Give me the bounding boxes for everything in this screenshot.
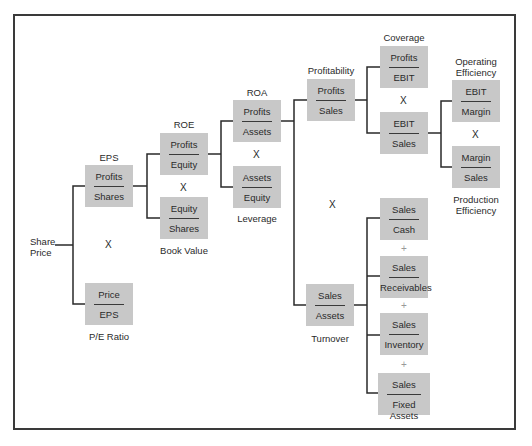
roe-box: Profits Equity bbox=[160, 133, 208, 175]
production-efficiency-box: Margin Sales bbox=[452, 146, 500, 188]
multiply-operator: X bbox=[472, 129, 479, 140]
profitability-denominator: Sales bbox=[307, 105, 355, 116]
multiply-operator: X bbox=[180, 182, 187, 193]
fraction-bar bbox=[461, 167, 491, 168]
eps-denominator: Shares bbox=[85, 191, 133, 202]
production-efficiency-line1: Production bbox=[446, 194, 506, 205]
cash-box: Sales Cash bbox=[380, 198, 428, 240]
book-value-numerator: Equity bbox=[160, 203, 208, 214]
leverage-denominator: Equity bbox=[233, 192, 281, 203]
profitability-box: Profits Sales bbox=[307, 79, 355, 121]
profitability-numerator: Profits bbox=[307, 85, 355, 96]
leverage-caption: Leverage bbox=[227, 213, 287, 224]
roe-title: ROE bbox=[160, 119, 208, 130]
turnover-box: Sales Assets bbox=[306, 284, 354, 326]
fraction-bar bbox=[169, 218, 199, 219]
pe-caption: P/E Ratio bbox=[79, 331, 139, 342]
fixed-assets-box: Sales Fixed Assets bbox=[378, 373, 430, 415]
coverage-denominator: EBIT bbox=[380, 72, 428, 83]
fraction-bar bbox=[169, 154, 199, 155]
fraction-bar bbox=[389, 67, 419, 68]
pe-box: Price EPS bbox=[85, 283, 133, 325]
share-price-label: Share Price bbox=[30, 236, 55, 258]
plus-operator: + bbox=[401, 359, 407, 370]
coverage-box: Profits EBIT bbox=[380, 46, 428, 88]
turnover-caption: Turnover bbox=[300, 333, 360, 344]
multiply-operator: X bbox=[105, 239, 112, 250]
multiply-operator: X bbox=[329, 199, 336, 210]
roa-denominator: Assets bbox=[233, 126, 281, 137]
operating-efficiency-title: Operating Efficiency bbox=[446, 56, 506, 78]
fraction-bar bbox=[315, 305, 345, 306]
operating-efficiency-numerator: EBIT bbox=[452, 86, 500, 97]
coverage-numerator: Profits bbox=[380, 52, 428, 63]
ebit-sales-box: EBIT Sales bbox=[380, 112, 428, 154]
operating-efficiency-line2: Efficiency bbox=[446, 67, 506, 78]
roe-numerator: Profits bbox=[160, 139, 208, 150]
leverage-numerator: Assets bbox=[233, 172, 281, 183]
operating-efficiency-box: EBIT Margin bbox=[452, 80, 500, 122]
fixed-assets-numerator: Sales bbox=[378, 379, 430, 390]
multiply-operator: X bbox=[400, 95, 407, 106]
book-value-caption: Book Value bbox=[152, 245, 216, 256]
pe-denominator: EPS bbox=[85, 309, 133, 320]
inventory-numerator: Sales bbox=[380, 319, 428, 330]
eps-numerator: Profits bbox=[85, 171, 133, 182]
fraction-bar bbox=[94, 304, 124, 305]
production-efficiency-numerator: Margin bbox=[452, 152, 500, 163]
share-price-line2: Price bbox=[30, 247, 55, 258]
roa-box: Profits Assets bbox=[233, 100, 281, 142]
plus-operator: + bbox=[401, 300, 407, 311]
receivables-numerator: Sales bbox=[380, 262, 428, 273]
roa-numerator: Profits bbox=[233, 106, 281, 117]
receivables-box: Sales Receivables bbox=[380, 256, 428, 298]
production-efficiency-caption: Production Efficiency bbox=[446, 194, 506, 216]
fraction-bar bbox=[461, 101, 491, 102]
book-value-denominator: Shares bbox=[160, 223, 208, 234]
plus-operator: + bbox=[401, 243, 407, 254]
book-value-box: Equity Shares bbox=[160, 197, 208, 239]
fraction-bar bbox=[242, 121, 272, 122]
eps-title: EPS bbox=[85, 152, 133, 163]
inventory-denominator: Inventory bbox=[380, 339, 428, 350]
roa-title: ROA bbox=[233, 87, 281, 98]
multiply-operator: X bbox=[253, 149, 260, 160]
coverage-title: Coverage bbox=[374, 32, 434, 43]
receivables-denominator: Receivables bbox=[380, 282, 428, 293]
fraction-bar bbox=[387, 394, 421, 395]
eps-box: Profits Shares bbox=[85, 165, 133, 207]
fraction-bar bbox=[316, 100, 346, 101]
operating-efficiency-line1: Operating bbox=[446, 56, 506, 67]
fraction-bar bbox=[94, 186, 124, 187]
leverage-box: Assets Equity bbox=[233, 166, 281, 208]
cash-denominator: Cash bbox=[380, 224, 428, 235]
production-efficiency-denominator: Sales bbox=[452, 172, 500, 183]
inventory-box: Sales Inventory bbox=[380, 313, 428, 355]
fraction-bar bbox=[389, 133, 419, 134]
fraction-bar bbox=[242, 187, 272, 188]
turnover-numerator: Sales bbox=[306, 290, 354, 301]
ebit-sales-numerator: EBIT bbox=[380, 118, 428, 129]
fraction-bar bbox=[389, 334, 419, 335]
roe-denominator: Equity bbox=[160, 159, 208, 170]
pe-numerator: Price bbox=[85, 289, 133, 300]
share-price-line1: Share bbox=[30, 236, 55, 247]
profitability-title: Profitability bbox=[296, 65, 366, 76]
cash-numerator: Sales bbox=[380, 204, 428, 215]
ebit-sales-denominator: Sales bbox=[380, 138, 428, 149]
operating-efficiency-denominator: Margin bbox=[452, 106, 500, 117]
turnover-denominator: Assets bbox=[306, 310, 354, 321]
fraction-bar bbox=[389, 277, 419, 278]
fixed-assets-denominator: Fixed Assets bbox=[378, 399, 430, 421]
production-efficiency-line2: Efficiency bbox=[446, 205, 506, 216]
fraction-bar bbox=[389, 219, 419, 220]
